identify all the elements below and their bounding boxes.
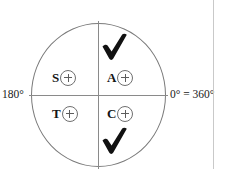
check-icon-lower-right [101, 126, 129, 156]
quadrant-letter-c: C [107, 107, 117, 120]
plus-circle-icon-s [60, 70, 76, 86]
quadrant-letter-s: S [52, 71, 60, 84]
quadrant-marker-c[interactable]: C [107, 105, 133, 122]
quadrant-letter-a: A [107, 71, 117, 84]
vertical-axis-line [98, 21, 99, 169]
plus-circle-icon-a [117, 70, 133, 86]
quadrant-marker-a[interactable]: A [107, 69, 133, 86]
axis-label-0-360-degrees: 0° = 360° [170, 89, 214, 101]
plus-circle-icon-t [62, 106, 78, 122]
diagram-canvas: 180° 0° = 360° S A T C [0, 0, 225, 169]
axis-label-180-degrees: 180° [2, 89, 24, 101]
quadrant-letter-t: T [52, 107, 62, 120]
plus-circle-icon-c [117, 106, 133, 122]
page-edge-rule [213, 0, 214, 169]
quadrant-marker-s[interactable]: S [52, 69, 76, 86]
check-icon-upper-right [101, 32, 129, 62]
quadrant-marker-t[interactable]: T [52, 105, 78, 122]
